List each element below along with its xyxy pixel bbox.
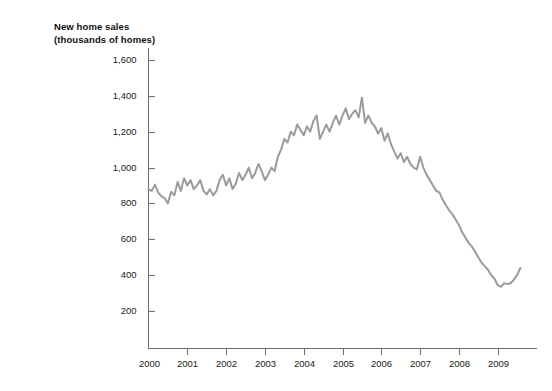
x-tick-label: 2004 [294,358,315,369]
x-tick-label: 2007 [410,358,431,369]
y-tick-label: 800 [121,197,137,208]
x-axis-ticks: 2000200120022003200420052006200720082009 [139,349,509,369]
x-tick-label: 2001 [177,358,198,369]
x-tick-label: 2003 [255,358,276,369]
y-tick-label: 400 [121,269,137,280]
y-tick-label: 600 [121,233,137,244]
y-tick-label: 1,600 [113,54,137,65]
chart-screenshot: New home sales (thousands of homes) 2004… [0,0,552,391]
x-tick-label: 2005 [333,358,354,369]
y-tick-label: 1,200 [113,126,137,137]
y-tick-label: 1,400 [113,90,137,101]
x-tick-label: 2008 [449,358,470,369]
y-tick-label: 200 [121,305,137,316]
data-series-new-home-sales [149,98,521,287]
x-tick-label: 2009 [488,358,509,369]
x-tick-label: 2002 [216,358,237,369]
x-tick-label: 2006 [371,358,392,369]
y-tick-label: 1,000 [113,162,137,173]
x-tick-label: 2000 [139,358,160,369]
line-chart: 2004006008001,0001,2001,4001,600 2000200… [0,0,552,391]
